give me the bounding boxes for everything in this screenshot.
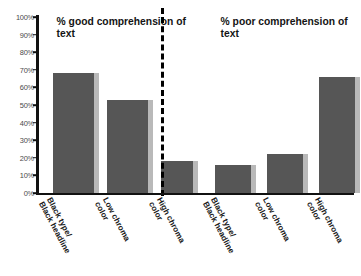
panel-good-bars <box>39 17 194 193</box>
y-tick-label-100: 100% <box>16 13 34 22</box>
plot-area: % good comprehension of text % poor comp… <box>39 17 354 193</box>
y-tick-mark-60 <box>33 87 37 89</box>
y-tick-label-30: 30% <box>20 136 34 145</box>
y-tick-label-50: 50% <box>20 101 34 110</box>
bar-face <box>107 100 148 193</box>
bar-poor-high-chroma <box>319 77 355 193</box>
y-tick-mark-80 <box>33 51 37 53</box>
y-tick-mark-40 <box>33 122 37 124</box>
y-tick-mark-100 <box>33 16 37 18</box>
cat-label-good-low-chroma: Low chroma color <box>92 196 149 276</box>
bar-poor-black-type <box>215 165 251 193</box>
bar-good-high-chroma <box>161 161 193 193</box>
cat-label-good-black-type: Black type/ Black headline <box>36 196 93 276</box>
y-axis-labels: 100% 90% 80% 70% 60% 50% 40% 30% 20% 10%… <box>0 17 34 193</box>
cat-label-poor-low-chroma: Low chroma color <box>252 196 309 276</box>
bar-face <box>267 154 303 193</box>
cat-label-good-high-chroma: High chroma color <box>146 196 203 276</box>
y-tick-label-40: 40% <box>20 118 34 127</box>
y-tick-label-10: 10% <box>20 171 34 180</box>
panel-divider <box>161 8 164 196</box>
panel-poor-comprehension: % poor comprehension of text <box>207 17 354 193</box>
bar-poor-low-chroma <box>267 154 303 193</box>
panel-poor-bars <box>207 17 354 193</box>
panel-good-comprehension: % good comprehension of text <box>39 17 194 193</box>
bar-face <box>215 165 251 193</box>
y-tick-mark-20 <box>33 157 37 159</box>
y-tick-mark-70 <box>33 69 37 71</box>
y-tick-mark-10 <box>33 175 37 177</box>
y-tick-mark-50 <box>33 104 37 106</box>
y-tick-mark-30 <box>33 139 37 141</box>
y-tick-label-20: 20% <box>20 153 34 162</box>
bar-face <box>161 161 193 193</box>
bar-good-black-type <box>53 73 94 193</box>
cat-label-poor-black-type: Black type/ Black headline <box>200 196 257 276</box>
bar-good-low-chroma <box>107 100 148 193</box>
y-tick-label-80: 80% <box>20 48 34 57</box>
y-tick-label-60: 60% <box>20 83 34 92</box>
cat-label-poor-high-chroma: High chroma color <box>304 196 361 276</box>
bar-face <box>53 73 94 193</box>
bar-face <box>319 77 355 193</box>
y-tick-label-90: 90% <box>20 30 34 39</box>
y-tick-mark-90 <box>33 34 37 36</box>
y-tick-label-70: 70% <box>20 65 34 74</box>
x-axis-category-labels: Black type/ Black headline Low chroma co… <box>39 196 357 276</box>
